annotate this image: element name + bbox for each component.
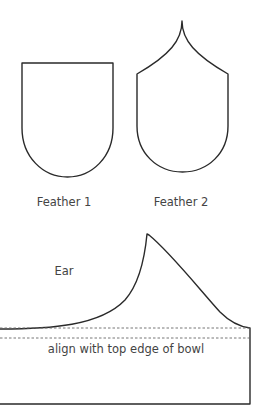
feather-1-outline bbox=[22, 63, 113, 177]
align-guide-text: align with top edge of bowl bbox=[48, 342, 204, 356]
ear-outline bbox=[0, 234, 250, 404]
feather-2-label: Feather 2 bbox=[154, 195, 209, 209]
feather-2-outline bbox=[137, 21, 228, 172]
template-sheet: Feather 1 Feather 2 Ear align with top e… bbox=[0, 0, 268, 411]
feather-1-label: Feather 1 bbox=[37, 195, 92, 209]
ear-label: Ear bbox=[54, 264, 73, 278]
